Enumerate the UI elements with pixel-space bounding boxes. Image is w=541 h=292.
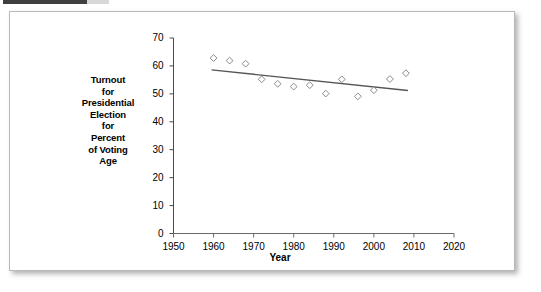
y-axis-tick-label: 50: [138, 89, 164, 99]
x-axis-tick-label: 2000: [354, 242, 394, 252]
chart-svg: [10, 12, 516, 272]
x-axis-tick-label: 1970: [234, 242, 274, 252]
data-point-marker: [306, 82, 313, 89]
axis-lines: [174, 38, 455, 234]
figure-panel: Turnout for Presidential Election for Pe…: [9, 11, 515, 271]
y-axis-tick-label: 60: [138, 61, 164, 71]
x-axis-tick-label: 2010: [394, 242, 434, 252]
x-axis-tick-label: 1990: [314, 242, 354, 252]
y-axis-tick-label: 40: [138, 117, 164, 127]
y-axis-ticks: [170, 38, 174, 234]
data-point-marker: [403, 70, 410, 77]
top-dark-bar: [3, 0, 87, 4]
x-axis-tick-label: 1980: [274, 242, 314, 252]
data-point-marker: [226, 57, 233, 64]
data-point-marker: [370, 87, 377, 94]
data-point-marker: [242, 60, 249, 67]
data-point-markers: [210, 55, 409, 100]
top-bar-tail: [87, 0, 109, 4]
y-axis-tick-label: 10: [138, 201, 164, 211]
data-point-marker: [386, 76, 393, 83]
x-axis-tick-label: 1960: [194, 242, 234, 252]
y-axis-tick-label: 30: [138, 145, 164, 155]
x-axis-ticks: [174, 234, 455, 238]
y-axis-tick-label: 70: [138, 33, 164, 43]
chart-plot-area: Turnout for Presidential Election for Pe…: [10, 12, 516, 272]
data-point-marker: [290, 83, 297, 90]
x-axis-tick-label: 2020: [434, 242, 474, 252]
y-axis-tick-label: 0: [138, 229, 164, 239]
x-axis-tick-label: 1950: [154, 242, 194, 252]
y-axis-tick-label: 20: [138, 173, 164, 183]
data-point-marker: [210, 55, 217, 62]
data-point-marker: [322, 90, 329, 97]
data-point-marker: [274, 80, 281, 87]
data-point-marker: [354, 93, 361, 100]
data-point-marker: [258, 76, 265, 83]
data-point-marker: [338, 76, 345, 83]
x-axis-title: Year: [240, 252, 320, 263]
